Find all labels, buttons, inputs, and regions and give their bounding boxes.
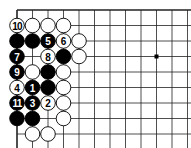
white-stone [56,80,71,95]
black-stone: 5 [41,34,56,49]
move-number: 1 [30,83,36,94]
white-stone: 6 [56,34,71,49]
star-points [155,55,159,59]
move-number: 11 [13,98,23,109]
move-number: 2 [45,98,51,109]
black-stone [25,34,40,49]
black-stone: 7 [10,49,25,64]
white-stone [56,65,71,80]
white-stone: 10 [10,18,25,33]
move-number: 9 [14,67,20,78]
black-stone: 1 [25,80,40,95]
white-stone [72,49,87,64]
black-stone: 3 [25,96,40,111]
black-stone: 9 [10,65,25,80]
black-stone [10,34,25,49]
black-stone: 11 [10,96,25,111]
white-stone: 2 [41,96,56,111]
white-stone: 4 [10,80,25,95]
white-stone [56,18,71,33]
black-stone [41,80,56,95]
black-stone [56,49,71,64]
white-stone [56,111,71,126]
black-stone [10,111,25,126]
move-number: 5 [45,36,51,47]
move-number: 4 [14,83,20,94]
move-number: 6 [61,36,67,47]
star-point [155,55,159,59]
white-stone [41,18,56,33]
white-stone [56,96,71,111]
black-stone [25,111,40,126]
white-stone [72,34,87,49]
move-number: 7 [14,52,20,63]
white-stone [25,18,40,33]
white-stone: 8 [41,49,56,64]
white-stone [25,127,40,142]
go-board: 1056789411132 [0,0,191,148]
white-stone [25,65,40,80]
white-stone [41,127,56,142]
move-number: 3 [30,98,36,109]
move-number: 10 [12,21,23,32]
black-stone [41,65,56,80]
move-number: 8 [45,52,51,63]
